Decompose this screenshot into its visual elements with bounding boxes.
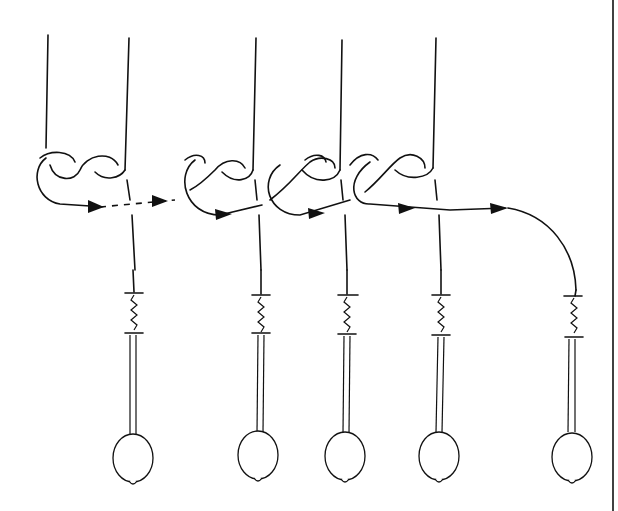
arrow-icon (152, 195, 168, 207)
knot-1 (37, 35, 135, 270)
knot-2 (185, 38, 262, 270)
bobbin-1 (113, 270, 153, 484)
bobbin-2 (238, 270, 278, 481)
final-thread (508, 208, 576, 290)
knot-4 (350, 38, 505, 270)
arrow-icon (490, 203, 508, 214)
bobbin-4 (419, 270, 459, 482)
arrow-icon (215, 209, 232, 220)
arrow-icon (88, 200, 104, 213)
knotting-diagram (0, 0, 618, 511)
knot-3 (268, 40, 350, 270)
bobbin-3 (325, 270, 365, 482)
arrow-icon (398, 203, 415, 214)
bobbin-5 (552, 290, 592, 483)
